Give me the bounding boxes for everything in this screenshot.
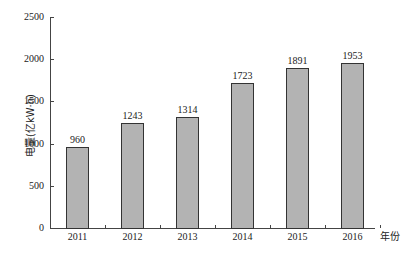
y-tick-mark — [50, 17, 54, 18]
x-tick-label: 2015 — [278, 232, 318, 242]
y-tick-mark — [50, 186, 54, 187]
bar-value-label: 1891 — [278, 56, 318, 66]
y-tick-mark — [50, 228, 54, 229]
bar-value-label: 1243 — [113, 111, 153, 121]
y-tick-label: 2000 — [10, 54, 44, 64]
x-tick-label: 2016 — [333, 232, 373, 242]
y-tick-mark — [50, 101, 54, 102]
bar-2015 — [286, 68, 309, 229]
y-axis — [50, 17, 51, 229]
x-tick-label: 2011 — [58, 232, 98, 242]
x-tick-mark — [325, 225, 326, 228]
x-tick-label: 2012 — [113, 232, 153, 242]
x-tick-mark — [160, 225, 161, 228]
x-axis-title: 年份 — [380, 228, 400, 243]
x-tick-mark — [105, 225, 106, 228]
bar-value-label: 960 — [58, 135, 98, 145]
bar-2011 — [66, 147, 89, 229]
bar-value-label: 1953 — [333, 51, 373, 61]
x-tick-mark — [215, 225, 216, 228]
y-axis-title: 电量(亿kW·h) — [22, 94, 37, 157]
bar-value-label: 1723 — [223, 71, 263, 81]
y-tick-mark — [50, 59, 54, 60]
y-tick-mark — [50, 144, 54, 145]
bar-value-label: 1314 — [168, 105, 208, 115]
y-tick-label: 2500 — [10, 12, 44, 22]
x-tick-label: 2014 — [223, 232, 263, 242]
x-tick-label: 2013 — [168, 232, 208, 242]
bar-2013 — [176, 117, 199, 229]
bar-2014 — [231, 83, 254, 229]
x-axis — [50, 228, 375, 229]
x-tick-mark — [270, 225, 271, 228]
y-tick-label: 500 — [10, 181, 44, 191]
bar-chart: 05001000150020002500 9602011124320121314… — [0, 0, 409, 258]
bar-2012 — [121, 123, 144, 229]
y-tick-label: 0 — [10, 223, 44, 233]
bar-2016 — [341, 63, 364, 229]
